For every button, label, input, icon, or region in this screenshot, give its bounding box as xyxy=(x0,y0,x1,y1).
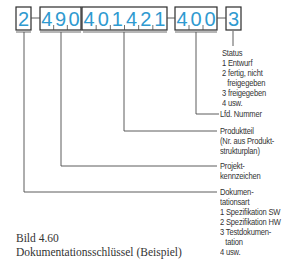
status-item: 3 freigegeben xyxy=(222,88,266,98)
projektkennzeichen-line: Projekt- xyxy=(220,161,261,171)
dokumentationsart-item: 2 Spezifikation HW xyxy=(220,217,281,227)
code-digit: 0 xyxy=(98,8,109,30)
code-digit: 0 xyxy=(190,8,201,30)
dokumentationsart-line: Dokumen- xyxy=(220,187,281,197)
code-digit: 9 xyxy=(55,8,66,30)
figure-caption: Bild 4.60 Dokumentationsschlüssel (Beisp… xyxy=(16,231,182,259)
projektkennzeichen-line: kennzeichen xyxy=(220,171,261,181)
code-digit: 1 xyxy=(112,8,123,30)
label-status: Status 1 Entwurf 2 fertig, nicht freigeg… xyxy=(222,48,266,108)
status-item: 1 Entwurf xyxy=(222,58,266,68)
label-produktteil: Produktteil (Nr. aus Produkt- strukturpl… xyxy=(220,126,274,156)
code-digit: 4 xyxy=(126,8,137,30)
dokumentationsart-item: 4 usw. xyxy=(220,247,281,257)
produktteil-line: strukturplan) xyxy=(220,146,274,156)
status-title: Status xyxy=(222,48,266,58)
produktteil-line: Produktteil xyxy=(220,126,274,136)
code-digit: 0 xyxy=(204,8,215,30)
figure-number: Bild 4.60 xyxy=(16,231,182,245)
leader-projektkennzeichen xyxy=(61,32,217,166)
dokumentationsart-line: tationsart xyxy=(220,197,281,207)
code-digit: 2 xyxy=(140,8,151,30)
produktteil-line: (Nr. aus Produkt- xyxy=(220,136,274,146)
dokumentationsart-item: 3 Testdokumen- xyxy=(220,227,281,237)
code-digit: 2 xyxy=(18,8,29,30)
label-dokumentationsart: Dokumen- tationsart 1 Spezifikation SW 2… xyxy=(220,187,281,257)
lfd-nummer-title: Lfd. Nummer xyxy=(220,109,262,119)
dokumentationsart-item: tation xyxy=(220,237,281,247)
code-digit: 4 xyxy=(41,8,52,30)
code-digit: 1 xyxy=(154,8,165,30)
leader-produktteil xyxy=(124,32,217,131)
code-digit: 0 xyxy=(69,8,80,30)
code-digit: 4 xyxy=(84,8,95,30)
code-digit: 3 xyxy=(228,8,239,30)
label-projektkennzeichen: Projekt- kennzeichen xyxy=(220,161,261,181)
dokumentationsart-item: 1 Spezifikation SW xyxy=(220,207,281,217)
digits: 24904014214003 xyxy=(18,8,239,30)
code-digit: 4 xyxy=(176,8,187,30)
status-item: freigegeben xyxy=(222,78,266,88)
figure-title: Dokumentationsschlüssel (Beispiel) xyxy=(16,245,182,259)
status-item: 4 usw. xyxy=(222,98,266,108)
label-lfd-nummer: Lfd. Nummer xyxy=(220,109,262,119)
leader-dokumentationsart xyxy=(24,32,217,192)
leader-lfd-nummer xyxy=(196,32,219,114)
status-item: 2 fertig, nicht xyxy=(222,68,266,78)
